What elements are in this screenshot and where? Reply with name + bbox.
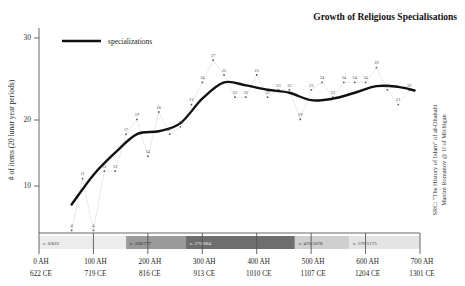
x-tick-label-ah: 200 AH bbox=[139, 258, 162, 266]
data-point-label: 24 bbox=[342, 75, 347, 80]
data-point-label: 4 bbox=[92, 223, 95, 228]
data-point[interactable] bbox=[354, 82, 356, 84]
data-point[interactable] bbox=[299, 119, 301, 121]
trend-line-series bbox=[72, 82, 415, 205]
data-point-label: 25 bbox=[222, 68, 226, 73]
data-point-label: 14 bbox=[146, 149, 151, 154]
source-note-line-1: SRC: "The History of Islam" of al-Dhahab… bbox=[431, 104, 438, 215]
x-tick-label-ce: 1301 CE bbox=[409, 270, 435, 278]
data-point[interactable] bbox=[114, 170, 116, 172]
data-point-label: 4 bbox=[71, 223, 74, 228]
data-point-label: 19 bbox=[135, 112, 139, 117]
religious-specialisations-chart: Growth of Religious Specialisations 30 2… bbox=[0, 0, 465, 286]
data-point-label: 20 bbox=[157, 105, 161, 110]
x-tick-label-ah: 600 AH bbox=[356, 258, 379, 266]
data-point-label: 21 bbox=[189, 97, 193, 102]
data-point-label: 19 bbox=[298, 112, 302, 117]
page-title: Growth of Religious Specialisations bbox=[313, 12, 457, 22]
data-point[interactable] bbox=[256, 74, 258, 76]
data-point-label: 27 bbox=[211, 53, 216, 58]
data-point[interactable] bbox=[223, 74, 225, 76]
y-tick-label-10: 10 bbox=[24, 181, 32, 190]
x-tick-label-ce: 1010 CE bbox=[246, 270, 272, 278]
data-point[interactable] bbox=[180, 126, 182, 128]
x-tick-label-ce: 913 CE bbox=[193, 270, 215, 278]
data-point[interactable] bbox=[234, 96, 236, 98]
x-tick-label-ah: 700 AH bbox=[411, 258, 434, 266]
data-point[interactable] bbox=[147, 156, 149, 158]
x-tick-label-ah: 500 AH bbox=[302, 258, 325, 266]
data-point[interactable] bbox=[397, 104, 399, 106]
x-tick-label-ce: 816 CE bbox=[139, 270, 161, 278]
data-point[interactable] bbox=[169, 133, 171, 135]
chart-legend: specializations bbox=[62, 37, 152, 46]
data-point-label: 12 bbox=[102, 164, 106, 169]
legend-label-specializations: specializations bbox=[108, 37, 152, 46]
data-point-label: 24 bbox=[320, 75, 325, 80]
x-tick-label-ah: 400 AH bbox=[247, 258, 270, 266]
data-point-label: 23 bbox=[287, 83, 291, 88]
data-point-label: 23 bbox=[309, 83, 313, 88]
data-point[interactable] bbox=[158, 111, 160, 113]
x-tick-label-ah: 0 AH bbox=[33, 258, 48, 266]
data-point-label: 22 bbox=[331, 90, 335, 95]
data-point-label: 23 bbox=[276, 83, 280, 88]
x-tick-label-ce: 1107 CE bbox=[301, 270, 327, 278]
data-point[interactable] bbox=[136, 119, 138, 121]
x-tick-label-ce: 719 CE bbox=[85, 270, 107, 278]
y-tick-label-20: 20 bbox=[24, 115, 32, 124]
x-tick-label-ah: 300 AH bbox=[193, 258, 216, 266]
y-axis-ticks: 30 20 10 bbox=[24, 33, 40, 190]
data-point[interactable] bbox=[321, 82, 323, 84]
x-tick-label-ce: 1204 CE bbox=[355, 270, 381, 278]
data-point-label: 25 bbox=[255, 68, 259, 73]
data-point[interactable] bbox=[245, 96, 247, 98]
data-point[interactable] bbox=[310, 89, 312, 91]
y-tick-label-30: 30 bbox=[24, 33, 32, 42]
data-point-labels: 4114121217191420171821242725222225222323… bbox=[71, 53, 412, 228]
data-point[interactable] bbox=[103, 170, 105, 172]
data-point-label: 22 bbox=[233, 90, 237, 95]
era-band-label: c. 160/777 bbox=[130, 241, 152, 246]
era-band-label: c. 0/622 bbox=[43, 241, 60, 246]
source-note: SRC: "The History of Islam" of al-Dhahab… bbox=[431, 104, 447, 215]
data-point-label: 22 bbox=[265, 90, 269, 95]
data-point-label: 23 bbox=[385, 83, 389, 88]
source-note-line-2: Maxim Romanov @ U of Michigan bbox=[440, 113, 447, 205]
data-point[interactable] bbox=[201, 82, 203, 84]
data-point-label: 11 bbox=[80, 171, 84, 176]
x-tick-label-ah: 100 AH bbox=[84, 258, 107, 266]
data-point-label: 24 bbox=[353, 75, 358, 80]
data-point[interactable] bbox=[212, 59, 214, 61]
data-point-label: 23 bbox=[407, 83, 411, 88]
chart-container: Growth of Religious Specialisations 30 2… bbox=[0, 0, 465, 286]
data-point[interactable] bbox=[191, 104, 193, 106]
data-point[interactable] bbox=[82, 178, 84, 180]
data-point-label: 26 bbox=[374, 60, 379, 65]
data-point[interactable] bbox=[93, 230, 95, 232]
data-point[interactable] bbox=[386, 89, 388, 91]
era-band-label: c. 270/884 bbox=[190, 241, 212, 246]
data-point[interactable] bbox=[343, 82, 345, 84]
era-band-strip: c. 0/622c. 160/777c. 270/884c. 470/1078c… bbox=[39, 236, 420, 249]
data-point[interactable] bbox=[376, 67, 378, 69]
data-point[interactable] bbox=[288, 89, 290, 91]
y-axis-title: # of items (20 lunar year periods) bbox=[7, 79, 16, 180]
x-tick-label-ce: 622 CE bbox=[30, 270, 52, 278]
data-point[interactable] bbox=[267, 96, 269, 98]
data-point-label: 18 bbox=[178, 120, 182, 125]
data-point-label: 12 bbox=[113, 164, 117, 169]
trend-line bbox=[72, 82, 415, 205]
data-point-label: 21 bbox=[396, 97, 400, 102]
data-point[interactable] bbox=[365, 82, 367, 84]
data-point-label: 22 bbox=[244, 90, 248, 95]
data-point[interactable] bbox=[125, 133, 127, 135]
data-point[interactable] bbox=[71, 230, 73, 232]
